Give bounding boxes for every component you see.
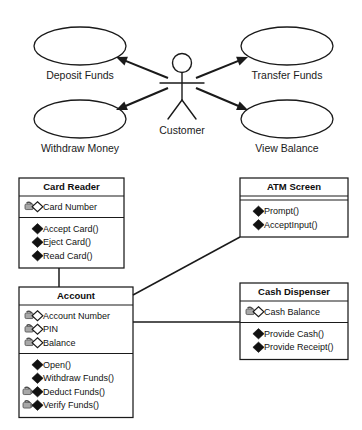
method-label: Prompt() (264, 206, 299, 216)
association-line (196, 88, 240, 106)
arrow-head-icon (236, 57, 248, 66)
attribute-label: Cash Balance (264, 307, 320, 317)
class-box-card-reader[interactable]: Card ReaderCard NumberAccept Card()Eject… (19, 178, 124, 268)
actor-left-leg-line (168, 100, 182, 119)
attribute-row: Account Number (25, 311, 110, 321)
method-label: Provide Cash() (264, 329, 324, 339)
method-row: Open() (32, 360, 71, 370)
method-label: Verify Funds() (43, 400, 99, 410)
association-line (124, 60, 168, 78)
method-compartment: Accept Card()Eject Card()Read Card() (32, 224, 99, 261)
attribute-row: Card Number (25, 202, 97, 212)
class-name-label: Card Reader (43, 181, 100, 192)
lock-body (23, 402, 31, 408)
uml-diagram-canvas: Deposit FundsTransfer FundsWithdraw Mone… (0, 0, 362, 430)
assoc-view-balance[interactable] (196, 88, 248, 110)
use-case-withdraw-money[interactable]: Withdraw Money (34, 100, 126, 154)
association-line (124, 88, 168, 106)
method-label: Accept Card() (43, 224, 99, 234)
class-name-label: ATM Screen (267, 181, 321, 192)
use-case-ellipse (241, 27, 333, 65)
actor-label: Customer (159, 124, 205, 136)
use-case-label: Transfer Funds (252, 69, 323, 81)
use-case-transfer-funds[interactable]: Transfer Funds (241, 27, 333, 81)
use-case-ellipse (34, 27, 126, 65)
attribute-compartment: Card Number (25, 202, 97, 212)
method-label: Eject Card() (43, 237, 91, 247)
attribute-compartment: Cash Balance (246, 307, 320, 317)
arrow-head-icon (236, 101, 248, 110)
use-case-deposit-funds[interactable]: Deposit Funds (34, 27, 126, 81)
use-case-view-balance[interactable]: View Balance (241, 100, 333, 154)
actor-right-leg-line (182, 100, 196, 119)
method-label: AcceptInput() (264, 220, 318, 230)
arrow-head-icon (116, 57, 128, 66)
method-row: Provide Cash() (253, 329, 324, 339)
actor-head-icon (173, 54, 192, 73)
arrow-head-icon (116, 101, 128, 110)
association-line (196, 60, 240, 78)
attribute-label: PIN (43, 324, 58, 334)
class-box-frame (19, 287, 133, 418)
class-name-label: Cash Dispenser (258, 286, 330, 297)
attribute-row: Cash Balance (246, 307, 320, 317)
method-row: Prompt() (253, 206, 299, 216)
use-case-ellipse (241, 100, 333, 138)
method-label: Read Card() (43, 251, 93, 261)
use-case-diagram-section: Deposit FundsTransfer FundsWithdraw Mone… (34, 27, 333, 154)
lock-body (23, 389, 31, 395)
assoc-withdraw[interactable] (116, 88, 168, 110)
class-box-atm-screen[interactable]: ATM ScreenPrompt()AcceptInput() (240, 178, 348, 237)
method-label: Provide Receipt() (264, 342, 334, 352)
attribute-label: Card Number (43, 202, 97, 212)
method-row: Withdraw Funds() (32, 373, 114, 383)
class-diagram-section: Card ReaderCard NumberAccept Card()Eject… (19, 178, 348, 418)
use-case-ellipse (34, 100, 126, 138)
use-case-label: Withdraw Money (41, 142, 120, 154)
method-label: Open() (43, 360, 71, 370)
method-label: Withdraw Funds() (43, 373, 114, 383)
use-case-label: Deposit Funds (46, 69, 114, 81)
class-name-label: Account (57, 290, 96, 301)
conn-account-atmscreen[interactable] (133, 237, 240, 295)
uml-diagram-svg: Deposit FundsTransfer FundsWithdraw Mone… (0, 0, 362, 430)
attribute-label: Account Number (43, 311, 110, 321)
class-box-account[interactable]: AccountAccount NumberPINBalanceOpen()Wit… (19, 287, 133, 418)
class-box-cash-dispenser[interactable]: Cash DispenserCash BalanceProvide Cash()… (240, 283, 348, 360)
assoc-deposit[interactable] (116, 57, 168, 78)
method-label: Deduct Funds() (43, 387, 105, 397)
method-row: Provide Receipt() (253, 342, 334, 352)
use-case-label: View Balance (255, 142, 319, 154)
attribute-label: Balance (43, 338, 76, 348)
assoc-transfer[interactable] (196, 57, 248, 78)
actor-customer[interactable]: Customer (159, 54, 205, 136)
